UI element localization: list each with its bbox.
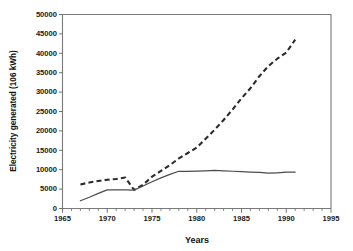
chart-canvas: 0500010000150002000025000300003500040000…: [0, 0, 353, 251]
x-axis-tick-labels: 1965197019751980198519901995: [54, 214, 340, 223]
axes: [63, 15, 332, 209]
x-tick-label: 1980: [188, 214, 205, 223]
x-tick-label: 1965: [54, 214, 72, 223]
y-tick-label: 10000: [36, 165, 57, 174]
x-tick-label: 1970: [99, 214, 116, 223]
x-tick-label: 1985: [233, 214, 251, 223]
axis-frame: [63, 15, 332, 209]
x-tick-label: 1975: [144, 214, 162, 223]
y-tick-label: 0: [53, 204, 57, 213]
y-axis-title: Electricity generated (106 kWh): [9, 50, 18, 172]
y-tick-label: 5000: [40, 184, 57, 193]
y-tick-label: 25000: [36, 107, 57, 116]
y-tick-label: 30000: [36, 87, 57, 96]
y-tick-label: 35000: [36, 68, 57, 77]
x-axis-ticks: [63, 209, 332, 213]
y-tick-label: 45000: [36, 29, 57, 38]
chart-figure: 0500010000150002000025000300003500040000…: [0, 0, 353, 251]
x-axis-title: Years: [185, 235, 209, 245]
x-tick-label: 1995: [323, 214, 341, 223]
x-tick-label: 1990: [278, 214, 295, 223]
y-axis-tick-labels: 0500010000150002000025000300003500040000…: [36, 10, 57, 213]
y-tick-label: 40000: [36, 49, 57, 58]
y-tick-label: 15000: [36, 146, 57, 155]
series-line-solid-series: [80, 170, 295, 200]
data-series: [80, 40, 295, 201]
y-tick-label: 50000: [36, 10, 57, 19]
y-tick-label: 20000: [36, 126, 57, 135]
series-line-dashed-series: [80, 40, 295, 190]
